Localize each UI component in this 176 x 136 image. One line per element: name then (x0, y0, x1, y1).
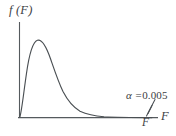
critical-value-tick (148, 106, 152, 114)
density-curve (20, 40, 152, 118)
figure-canvas (0, 0, 176, 136)
y-axis-label: f (F) (9, 4, 33, 17)
f-distribution-figure: f (F) α =0.005 F F (0, 0, 176, 136)
x-axis-label: F (161, 110, 169, 123)
critical-value-label: F (142, 117, 149, 129)
alpha-annotation: α =0.005 (126, 90, 168, 101)
alpha-value: 0.005 (142, 89, 167, 101)
alpha-symbol: α = (126, 89, 142, 101)
